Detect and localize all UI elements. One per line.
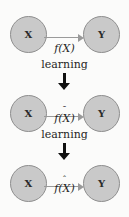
edge-label-fn-row-3: ˆ f(X) [54, 182, 75, 195]
down-arrow-icon-2 [58, 143, 71, 160]
edge-label-accent-row-3: ˆ [62, 176, 67, 185]
learning-step-2-label: learning [0, 129, 129, 140]
edge-label-row-1: f(X) [0, 42, 129, 55]
down-arrow-icon-1 [58, 73, 71, 90]
down-arrow-head [58, 83, 70, 90]
function-learning-diagram: X Y f(X) learning X Y [0, 0, 129, 217]
edge-label-row-3: ˆ f(X) [0, 182, 129, 195]
edge-label-base-row-1: f(X) [54, 42, 75, 55]
edge-label-accent-row-2: ˉ [62, 106, 67, 115]
down-arrow-head [58, 153, 70, 160]
learning-step-1-label: learning [0, 59, 129, 70]
edge-label-fn-row-2: ˉ f(X) [54, 112, 75, 125]
edge-label-fn-row-1: f(X) [54, 42, 75, 55]
edge-label-row-2: ˉ f(X) [0, 112, 129, 125]
learning-step-1: learning [0, 59, 129, 90]
learning-step-2: learning [0, 129, 129, 160]
edge-arrow-shaft [44, 37, 80, 38]
edge-arrow-row-1 [44, 33, 85, 42]
